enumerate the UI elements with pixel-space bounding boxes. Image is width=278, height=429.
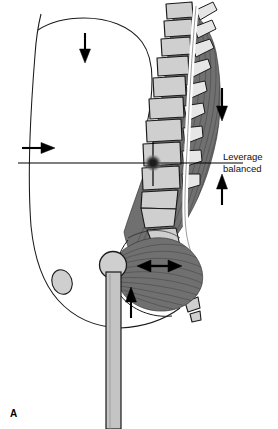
fulcrum-point — [145, 155, 162, 172]
panel-label: A — [10, 408, 17, 419]
leverage-label-group: Leverage balanced — [223, 151, 263, 174]
femur-shaft — [106, 272, 121, 429]
leverage-label-line1: Leverage — [223, 151, 263, 162]
anatomical-diagram-figure: Leverage balanced A — [0, 0, 278, 429]
leverage-label-line2: balanced — [223, 163, 262, 174]
leverage-balanced-diagram-svg: Leverage balanced A — [0, 0, 278, 429]
